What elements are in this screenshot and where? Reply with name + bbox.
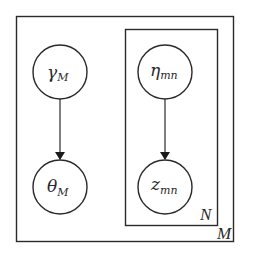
node-z-subscript: mn	[160, 184, 178, 197]
node-gamma: γM	[33, 45, 87, 99]
plate-outer-label: M	[216, 224, 232, 243]
node-eta: ηmn	[138, 45, 192, 99]
plate-inner-label: N	[199, 205, 213, 224]
plate-diagram: M N γM θM ηmn zmn	[0, 0, 260, 258]
node-theta: θM	[33, 160, 87, 214]
node-eta-subscript: mn	[160, 69, 178, 82]
node-theta-symbol: θ	[47, 176, 57, 196]
node-gamma-subscript: M	[56, 71, 69, 84]
node-z: zmn	[138, 160, 192, 214]
node-theta-subscript: M	[56, 186, 69, 199]
